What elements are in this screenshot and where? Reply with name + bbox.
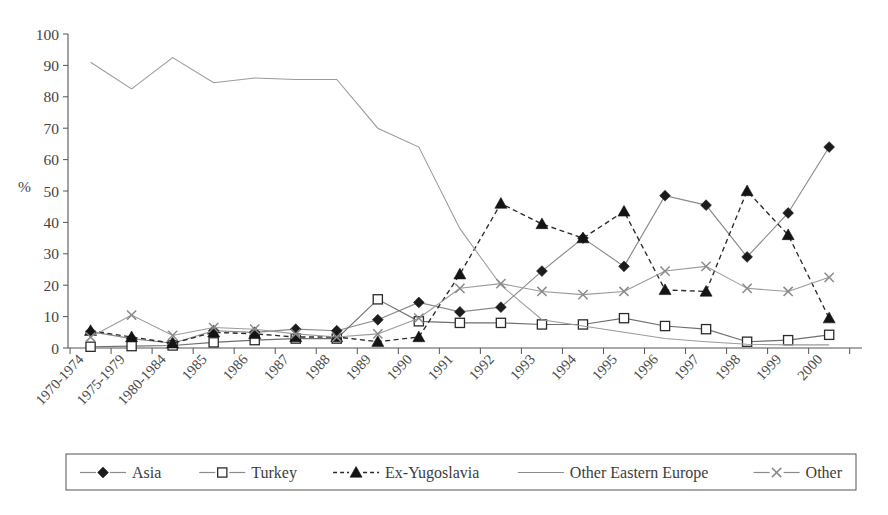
y-tick-label: 60 bbox=[44, 151, 60, 168]
data-point-marker bbox=[496, 318, 505, 327]
y-tick-label: 70 bbox=[44, 120, 60, 137]
y-tick-label: 90 bbox=[44, 57, 60, 74]
data-point-marker bbox=[578, 320, 587, 329]
legend-marker-open-square bbox=[218, 468, 227, 477]
legend-label: Asia bbox=[132, 464, 161, 481]
data-point-marker bbox=[784, 336, 793, 345]
data-point-marker bbox=[701, 325, 710, 334]
data-point-marker bbox=[537, 320, 546, 329]
data-point-marker bbox=[660, 321, 669, 330]
y-tick-label: 30 bbox=[44, 245, 60, 262]
legend-label: Ex-Yugoslavia bbox=[385, 464, 479, 482]
y-tick-label: 40 bbox=[44, 214, 60, 231]
data-point-marker bbox=[86, 342, 95, 351]
legend-label: Other Eastern Europe bbox=[570, 464, 709, 482]
data-point-marker bbox=[825, 330, 834, 339]
data-point-marker bbox=[619, 314, 628, 323]
y-tick-label: 10 bbox=[44, 308, 60, 325]
chart-background bbox=[0, 0, 888, 515]
y-tick-label: 50 bbox=[44, 183, 60, 200]
chart-legend: AsiaTurkeyEx-YugoslaviaOther Eastern Eur… bbox=[66, 454, 856, 490]
data-point-marker bbox=[373, 295, 382, 304]
legend-label: Other bbox=[806, 464, 843, 481]
legend-label: Turkey bbox=[251, 464, 297, 482]
y-tick-label: 0 bbox=[51, 340, 59, 357]
data-point-marker bbox=[209, 338, 218, 347]
data-point-marker bbox=[743, 337, 752, 346]
line-chart: 0102030405060708090100 1970-19741975-197… bbox=[0, 0, 888, 515]
data-point-marker bbox=[455, 318, 464, 327]
chart-container: 0102030405060708090100 1970-19741975-197… bbox=[0, 0, 888, 515]
data-point-marker bbox=[127, 342, 136, 351]
y-tick-label: 100 bbox=[36, 26, 60, 43]
y-tick-label: 80 bbox=[44, 88, 60, 105]
y-tick-label: 20 bbox=[44, 277, 60, 294]
y-axis-title: % bbox=[18, 178, 31, 195]
